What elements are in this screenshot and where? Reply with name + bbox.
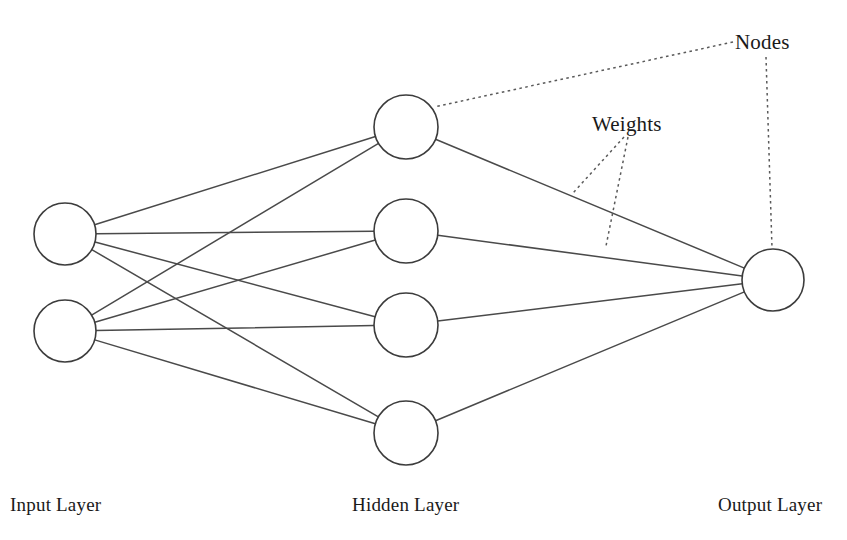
nodes-annotation-leader-2 xyxy=(766,57,772,248)
connection-edge-i1-h1 xyxy=(95,137,376,225)
connection-edge-h2-o1 xyxy=(438,235,743,276)
connection-edge-i2-h1 xyxy=(92,143,379,315)
connection-edge-h3-o1 xyxy=(438,284,742,321)
connection-edge-i2-h3 xyxy=(96,326,374,331)
hidden-node-h3 xyxy=(374,293,438,357)
hidden-layer-label: Hidden Layer xyxy=(352,494,460,515)
neural-network-canvas: NodesWeights Input LayerHidden LayerOutp… xyxy=(0,0,847,540)
neural-network-diagram: NodesWeights Input LayerHidden LayerOutp… xyxy=(0,0,847,540)
connection-edge-i1-h4 xyxy=(92,250,379,417)
nodes-annotation: Nodes xyxy=(735,30,790,54)
hidden-node-h4 xyxy=(374,401,438,465)
connection-edge-h1-o1 xyxy=(436,139,745,268)
input-layer-label: Input Layer xyxy=(10,494,102,515)
nodes-annotation-leader-1 xyxy=(434,42,733,107)
annotation-labels-group: NodesWeights xyxy=(592,30,790,136)
input-node-i1 xyxy=(34,203,96,265)
output-node-o1 xyxy=(742,249,804,311)
connection-edge-i1-h3 xyxy=(95,242,375,317)
connection-edge-i1-h2 xyxy=(96,231,374,233)
layer-labels-group: Input LayerHidden LayerOutput Layer xyxy=(10,494,823,515)
hidden-node-h1 xyxy=(374,95,438,159)
weights-annotation: Weights xyxy=(592,112,662,136)
weights-annotation-leader-2 xyxy=(606,137,628,246)
connection-edges-group xyxy=(92,137,745,424)
weights-annotation-leader-1 xyxy=(573,137,624,193)
connection-edge-i2-h2 xyxy=(95,240,376,322)
connection-edge-i2-h4 xyxy=(95,340,376,424)
connection-edge-h4-o1 xyxy=(436,292,745,421)
annotation-leader-lines-group xyxy=(434,42,772,248)
output-layer-label: Output Layer xyxy=(718,494,823,515)
input-node-i2 xyxy=(34,300,96,362)
hidden-node-h2 xyxy=(374,199,438,263)
